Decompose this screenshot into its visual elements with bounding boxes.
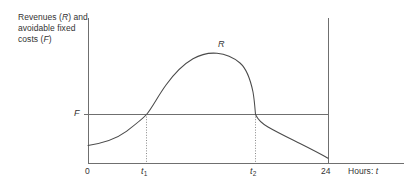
y-axis-label-text-3: ) bbox=[49, 34, 52, 44]
x-tick-label-t1: t1 bbox=[141, 166, 147, 177]
y-axis-label-text-1: Revenues ( bbox=[18, 12, 62, 22]
x-tick-label-0: 0 bbox=[85, 166, 90, 177]
x-axis-label: Hours: t bbox=[348, 166, 378, 177]
y-axis-label: Revenues (R) and avoidable fixed costs (… bbox=[18, 12, 92, 45]
x-axis-label-prefix: Hours: bbox=[348, 166, 376, 176]
x-tick-label-24: 24 bbox=[321, 166, 331, 177]
figure-container: Revenues (R) and avoidable fixed costs (… bbox=[0, 0, 408, 192]
x-tick-label-t2-subscript: 2 bbox=[253, 170, 257, 177]
revenue-curve bbox=[88, 53, 328, 158]
x-tick-label-t2: t2 bbox=[250, 166, 256, 177]
y-tick-label-f: F bbox=[74, 108, 80, 119]
curve-label-r: R bbox=[218, 39, 225, 50]
x-tick-label-t1-subscript: 1 bbox=[144, 170, 148, 177]
x-axis-label-symbol-t: t bbox=[376, 166, 378, 176]
